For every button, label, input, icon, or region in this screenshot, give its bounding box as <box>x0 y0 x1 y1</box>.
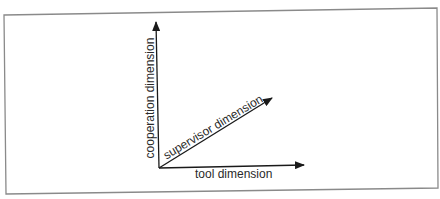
cooperation-axis-label: cooperation dimension <box>144 38 156 159</box>
tool-axis-label: tool dimension <box>195 168 272 180</box>
